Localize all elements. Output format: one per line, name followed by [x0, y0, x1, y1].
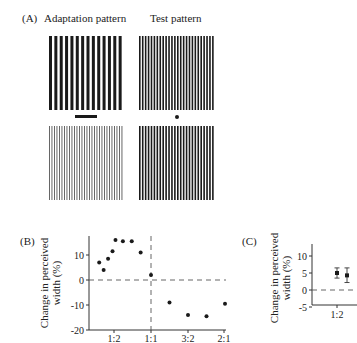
data-point — [111, 249, 115, 253]
chart-b-ytick: -20 — [71, 325, 84, 336]
chart-c-ytick: 5 — [302, 268, 307, 279]
data-point — [205, 314, 209, 318]
chart-b-xtick: 1:1 — [145, 333, 158, 343]
data-point — [106, 257, 110, 261]
data-point — [130, 239, 134, 243]
chart-b-xtick: 1:2 — [108, 333, 121, 343]
data-point — [149, 273, 153, 277]
chart-c-ytick: 10 — [297, 251, 307, 262]
test-fixation-dot — [175, 115, 179, 119]
data-point — [186, 313, 190, 317]
chart-b-ylabel-2: width (%) — [50, 261, 63, 306]
chart-b-xtick: 2:1 — [218, 333, 231, 343]
chart-c-points — [335, 268, 350, 283]
chart-c-ytick: -5 — [299, 302, 307, 313]
chart-c-ytick: 0 — [302, 285, 307, 296]
chart-c-ylabel-1: Change in perceived — [268, 232, 280, 323]
data-point — [168, 301, 172, 305]
grating-adaptation-top — [49, 36, 122, 110]
chart-b-ytick: 10 — [74, 250, 84, 261]
adaptation-fixation-bar — [75, 115, 97, 118]
grating-test-bottom — [139, 126, 214, 200]
data-point — [113, 238, 117, 242]
figure-canvas: 100-10-20 1:21:13:22:1 1050-5 1:2 Change… — [0, 0, 357, 343]
data-point — [97, 261, 101, 265]
grating-test-top — [139, 36, 214, 110]
data-point — [121, 239, 125, 243]
chart-c-ylabel-2: width (%) — [280, 256, 293, 301]
gratings — [49, 36, 214, 200]
data-point — [223, 302, 227, 306]
data-point — [102, 268, 106, 272]
chart-b-xtick: 3:2 — [182, 333, 195, 343]
data-point-errorbar — [345, 268, 350, 283]
chart-c-xtick: 1:2 — [331, 309, 344, 320]
panel-c-label: (C) — [242, 235, 257, 247]
data-point — [139, 251, 143, 255]
chart-b-ytick: 0 — [79, 275, 84, 286]
data-point-errorbar — [335, 268, 340, 278]
chart-c: 1050-5 1:2 — [297, 244, 357, 320]
chart-b-points — [97, 238, 227, 318]
chart-b: 100-10-20 1:21:13:22:1 — [71, 236, 231, 343]
grating-adaptation-bottom — [49, 126, 122, 200]
panel-b-label: (B) — [20, 235, 35, 247]
chart-b-ytick: -10 — [71, 300, 84, 311]
chart-b-ylabel-1: Change in perceived — [38, 237, 50, 328]
